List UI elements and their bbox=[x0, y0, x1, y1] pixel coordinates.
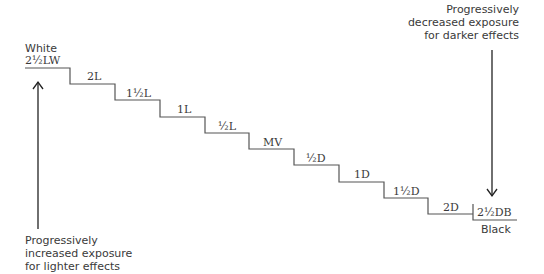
step-label: 1½L bbox=[126, 88, 151, 100]
caption-line: increased exposure bbox=[25, 247, 132, 260]
step-label: 2L bbox=[87, 71, 101, 83]
darker-caption: Progressively decreased exposure for dar… bbox=[408, 3, 519, 42]
step-label: 2D bbox=[443, 202, 459, 214]
step-label: 2½LW bbox=[25, 55, 60, 67]
caption-line: decreased exposure bbox=[408, 16, 519, 29]
step-label: MV bbox=[263, 137, 282, 149]
black-label: Black bbox=[481, 223, 511, 236]
caption-line: for darker effects bbox=[408, 29, 519, 42]
step-label: ½D bbox=[306, 153, 325, 165]
step-label: 2½DB bbox=[477, 207, 512, 219]
step-label: ½L bbox=[218, 121, 236, 133]
caption-line: Progressively bbox=[25, 234, 132, 247]
step-label: 1D bbox=[354, 169, 370, 181]
caption-line: for lighter effects bbox=[25, 260, 132, 273]
caption-line: Progressively bbox=[408, 3, 519, 16]
up-arrow-icon bbox=[33, 82, 43, 229]
step-label: 1L bbox=[177, 104, 191, 116]
step-label: 1½D bbox=[393, 186, 419, 198]
lighter-caption: Progressively increased exposure for lig… bbox=[25, 234, 132, 273]
down-arrow-icon bbox=[487, 50, 497, 196]
